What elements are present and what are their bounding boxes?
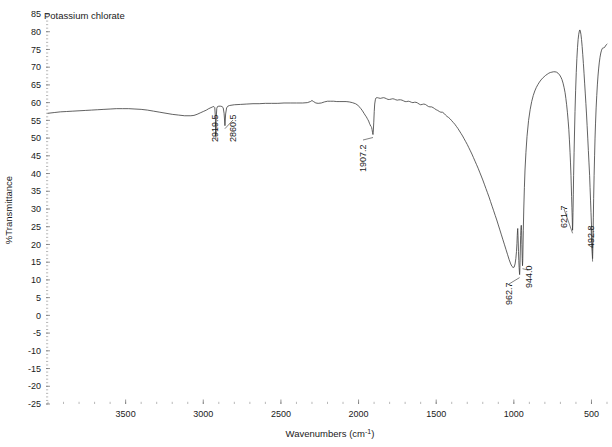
y-tick-label: -10 [28,346,41,356]
peak-label-962-7: 962.7 [504,282,514,305]
x-tick-label: 3500 [116,409,136,419]
y-tick-label: 65 [31,80,41,90]
ir-spectrum-page: 8580757065605550454035302520151050-5-10-… [0,0,612,447]
spectrum-chart: 8580757065605550454035302520151050-5-10-… [0,0,612,447]
y-tick-label: 60 [31,98,41,108]
peak-label-1907-2: 1907.2 [358,144,368,172]
y-tick-label: 0 [36,311,41,321]
spectrum-series [48,30,607,275]
y-tick-label: 25 [31,222,41,232]
y-tick-label: -25 [28,399,41,409]
peak-label-492-8: 492.8 [586,225,596,248]
y-axis-title: %Transmittance [3,176,14,244]
peak-label-2919-5: 2919.5 [210,114,220,142]
peak-label-2860-5: 2860.5 [228,114,238,142]
y-tick-label: 35 [31,186,41,196]
y-tick-label: -15 [28,364,41,374]
y-tick-label: 20 [31,240,41,250]
x-axis: 350030002500200015001000500 [48,400,607,420]
y-tick-label: 70 [31,62,41,72]
spectrum-trace [48,30,607,275]
x-tick-label: 2500 [271,409,291,419]
y-tick-label: 75 [31,45,41,55]
peak-label-944-0: 944.0 [524,265,534,288]
peak-leader-line [363,138,373,141]
y-tick-label: 10 [31,275,41,285]
y-tick-label: 15 [31,257,41,267]
x-tick-label: 500 [584,409,599,419]
x-axis-title: Wavenumbers (cm-1) [286,428,375,440]
x-tick-label: 3000 [193,409,213,419]
y-tick-label: -5 [33,328,41,338]
y-tick-label: 40 [31,169,41,179]
y-tick-label: 5 [36,293,41,303]
y-tick-label: 80 [31,27,41,37]
y-tick-label: 85 [31,9,41,19]
x-tick-label: 2000 [349,409,369,419]
peak-label-621-7: 621.7 [559,205,569,228]
y-tick-label: -20 [28,381,41,391]
x-tick-label: 1000 [504,409,524,419]
y-tick-label: 30 [31,204,41,214]
y-axis: 8580757065605550454035302520151050-5-10-… [28,9,50,409]
y-tick-label: 55 [31,116,41,126]
y-tick-label: 45 [31,151,41,161]
chart-title: Potassium chlorate [44,10,125,21]
x-tick-label: 1500 [426,409,446,419]
y-tick-label: 50 [31,133,41,143]
peak-annotations: 2919.52860.51907.2962.7944.0621.7492.8 [210,114,596,305]
